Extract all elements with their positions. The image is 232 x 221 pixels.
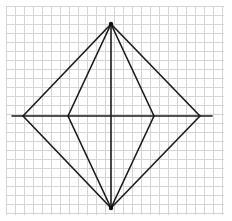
rhombus-diagram xyxy=(0,0,232,221)
vertex-bottom-marker xyxy=(109,206,113,210)
vertex-top-marker xyxy=(109,22,113,26)
